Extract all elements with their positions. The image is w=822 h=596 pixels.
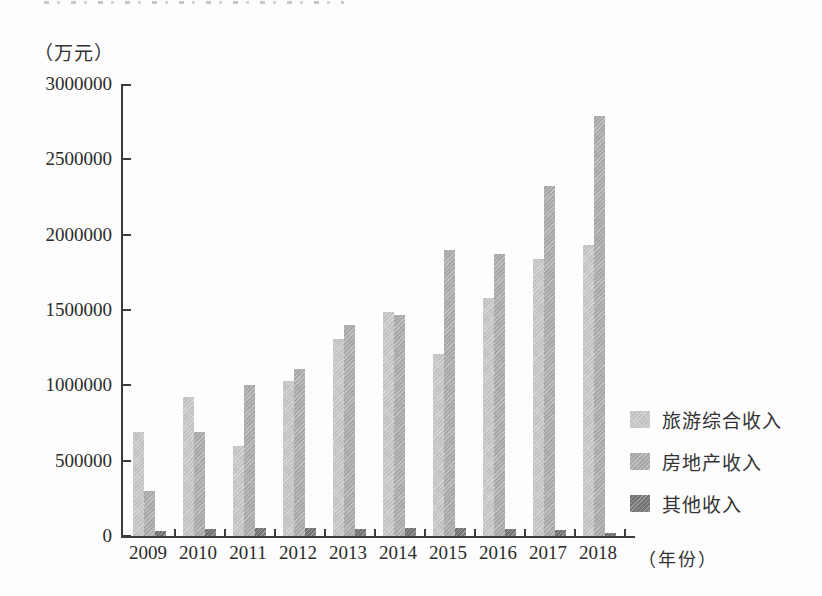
legend-item-tourism-income: 旅游综合收入 <box>630 406 782 433</box>
bar-real-estate-income <box>394 315 405 536</box>
x-tick-mark <box>324 529 326 536</box>
bar-group-2016 <box>483 254 516 536</box>
bar-tourism-income <box>283 381 294 536</box>
x-tick-label: 2009 <box>121 542 175 564</box>
bar-real-estate-income <box>294 369 305 536</box>
bar-group-2014 <box>383 312 416 536</box>
y-tick-mark <box>123 460 131 462</box>
y-tick-label: 3000000 <box>26 73 112 95</box>
bar-group-2011 <box>233 385 266 536</box>
x-tick-mark <box>274 529 276 536</box>
y-tick-mark <box>123 84 131 86</box>
bar-other-income <box>355 529 366 536</box>
legend-swatch-real-estate-income <box>630 453 650 470</box>
y-tick-mark <box>123 234 131 236</box>
bar-tourism-income <box>333 339 344 536</box>
x-axis-unit-label: （年份） <box>638 545 718 571</box>
x-tick-mark <box>374 529 376 536</box>
x-tick-label: 2016 <box>471 542 525 564</box>
bar-other-income <box>305 528 316 536</box>
bar-tourism-income <box>133 432 144 536</box>
bar-group-2012 <box>283 369 316 536</box>
y-tick-label: 1500000 <box>26 299 112 321</box>
bar-tourism-income <box>233 446 244 536</box>
x-tick-mark <box>574 529 576 536</box>
y-tick-label: 1000000 <box>26 374 112 396</box>
y-tick-label: 500000 <box>26 450 112 472</box>
x-tick-label: 2014 <box>371 542 425 564</box>
legend-item-real-estate-income: 房地产收入 <box>630 448 782 475</box>
x-tick-mark <box>174 529 176 536</box>
bar-other-income <box>555 530 566 536</box>
y-tick-mark <box>123 309 131 311</box>
bar-group-2018 <box>583 116 616 536</box>
x-tick-label: 2013 <box>321 542 375 564</box>
bar-real-estate-income <box>544 186 555 536</box>
bar-real-estate-income <box>144 491 155 536</box>
bar-real-estate-income <box>444 250 455 536</box>
plot-area <box>121 84 635 538</box>
legend-swatch-other-income <box>630 495 650 512</box>
bar-other-income <box>455 528 466 536</box>
bar-group-2017 <box>533 186 566 536</box>
bar-real-estate-income <box>244 385 255 536</box>
y-tick-mark <box>123 535 131 537</box>
bar-tourism-income <box>183 397 194 536</box>
bar-tourism-income <box>533 259 544 536</box>
legend-label: 房地产收入 <box>662 448 762 475</box>
bar-tourism-income <box>383 312 394 536</box>
y-tick-label: 2000000 <box>26 224 112 246</box>
x-tick-label: 2012 <box>271 542 325 564</box>
y-tick-label: 2500000 <box>26 148 112 170</box>
bar-group-2013 <box>333 325 366 536</box>
chart-figure: （万元） （年份） 旅游综合收入 房地产收入 其他收入 050000010000… <box>0 0 822 596</box>
bar-tourism-income <box>483 298 494 536</box>
x-tick-label: 2018 <box>571 542 625 564</box>
bar-other-income <box>205 529 216 536</box>
bar-group-2009 <box>133 432 166 536</box>
x-tick-mark <box>474 529 476 536</box>
bar-other-income <box>605 533 616 536</box>
bar-tourism-income <box>583 245 594 536</box>
bar-real-estate-income <box>194 432 205 536</box>
bar-real-estate-income <box>594 116 605 536</box>
x-tick-label: 2015 <box>421 542 475 564</box>
x-tick-label: 2010 <box>171 542 225 564</box>
clipped-text-fragment <box>44 1 344 4</box>
bar-real-estate-income <box>494 254 505 536</box>
bar-group-2015 <box>433 250 466 536</box>
y-tick-label: 0 <box>26 525 112 547</box>
bar-other-income <box>255 528 266 536</box>
bar-other-income <box>505 529 516 536</box>
y-axis-unit-label: （万元） <box>34 38 114 65</box>
x-tick-mark <box>524 529 526 536</box>
x-tick-label: 2011 <box>221 542 275 564</box>
x-tick-mark <box>624 529 626 536</box>
legend-label: 其他收入 <box>662 490 742 517</box>
legend-swatch-tourism-income <box>630 411 650 428</box>
x-tick-mark <box>424 529 426 536</box>
bar-real-estate-income <box>344 325 355 536</box>
bar-tourism-income <box>433 354 444 536</box>
bar-other-income <box>405 528 416 536</box>
bar-other-income <box>155 531 166 536</box>
legend-label: 旅游综合收入 <box>662 406 782 433</box>
x-tick-mark <box>224 529 226 536</box>
legend: 旅游综合收入 房地产收入 其他收入 <box>630 406 782 517</box>
x-tick-label: 2017 <box>521 542 575 564</box>
y-tick-mark <box>123 158 131 160</box>
bar-group-2010 <box>183 397 216 536</box>
legend-item-other-income: 其他收入 <box>630 490 782 517</box>
y-tick-mark <box>123 384 131 386</box>
